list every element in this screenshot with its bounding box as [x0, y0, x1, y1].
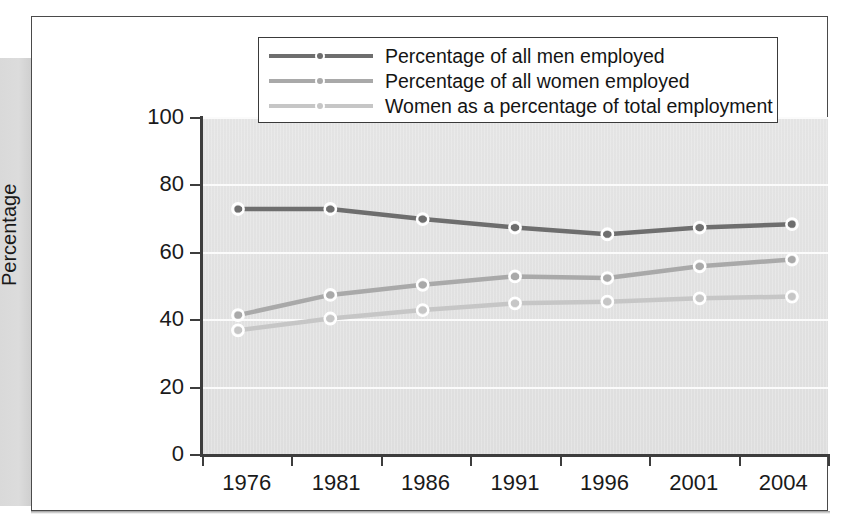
x-tick-label-1991: 1991 — [470, 470, 560, 496]
x-tick-4 — [560, 455, 562, 466]
chart-legend: Percentage of all men employedPercentage… — [258, 37, 778, 123]
data-point — [604, 231, 611, 238]
data-point — [604, 298, 611, 305]
figure-page: 020406080100 197619811986199119962001200… — [0, 0, 865, 532]
y-tick-80 — [190, 184, 201, 186]
data-point — [234, 312, 241, 319]
x-tick-3 — [470, 455, 472, 466]
legend-marker-dot — [315, 51, 325, 61]
x-tick-2 — [381, 455, 383, 466]
y-tick-label-20: 20 — [124, 374, 184, 400]
x-tick-0 — [202, 455, 204, 466]
y-tick-label-0: 0 — [124, 441, 184, 467]
legend-swatch-icon — [269, 99, 373, 113]
data-point — [419, 216, 426, 223]
data-point — [327, 291, 334, 298]
y-tick-60 — [190, 252, 201, 254]
data-point — [696, 263, 703, 270]
legend-item-2: Women as a percentage of total employmen… — [269, 94, 767, 118]
y-tick-100 — [190, 117, 201, 119]
legend-swatch-icon — [269, 49, 373, 63]
legend-item-1: Percentage of all women employed — [269, 69, 767, 93]
x-tick-label-2001: 2001 — [649, 470, 739, 496]
legend-label: Percentage of all women employed — [385, 70, 690, 92]
data-point — [788, 293, 795, 300]
data-point — [696, 295, 703, 302]
legend-marker-dot — [315, 101, 325, 111]
line-chart: 020406080100 197619811986199119962001200… — [0, 0, 865, 532]
data-point — [234, 327, 241, 334]
data-point — [511, 300, 518, 307]
y-tick-20 — [190, 387, 201, 389]
x-tick-label-2004: 2004 — [738, 470, 828, 496]
legend-marker-dot — [315, 76, 325, 86]
x-tick-label-1996: 1996 — [559, 470, 649, 496]
y-tick-40 — [190, 319, 201, 321]
series-0 — [232, 203, 797, 239]
data-point — [788, 221, 795, 228]
y-tick-label-100: 100 — [124, 104, 184, 130]
x-tick-6 — [739, 455, 741, 466]
series-1 — [232, 254, 797, 321]
data-point — [419, 281, 426, 288]
x-tick-5 — [649, 455, 651, 466]
data-point — [327, 315, 334, 322]
x-tick-label-1976: 1976 — [202, 470, 292, 496]
y-tick-label-80: 80 — [124, 171, 184, 197]
y-tick-0 — [190, 454, 201, 456]
legend-swatch-icon — [269, 74, 373, 88]
x-tick-7 — [828, 455, 830, 466]
data-point — [696, 224, 703, 231]
data-point — [511, 273, 518, 280]
legend-item-0: Percentage of all men employed — [269, 44, 767, 68]
data-point — [234, 205, 241, 212]
data-point — [419, 306, 426, 313]
data-point — [327, 205, 334, 212]
legend-label: Percentage of all men employed — [385, 45, 665, 67]
y-tick-label-40: 40 — [124, 306, 184, 332]
x-tick-1 — [291, 455, 293, 466]
y-tick-label-60: 60 — [124, 239, 184, 265]
x-tick-label-1981: 1981 — [291, 470, 381, 496]
series-plot-lines — [202, 118, 828, 455]
data-point — [604, 274, 611, 281]
data-point — [788, 256, 795, 263]
x-tick-label-1986: 1986 — [381, 470, 471, 496]
data-point — [511, 224, 518, 231]
legend-label: Women as a percentage of total employmen… — [385, 95, 773, 117]
y-axis-title: Percentage — [0, 184, 21, 286]
